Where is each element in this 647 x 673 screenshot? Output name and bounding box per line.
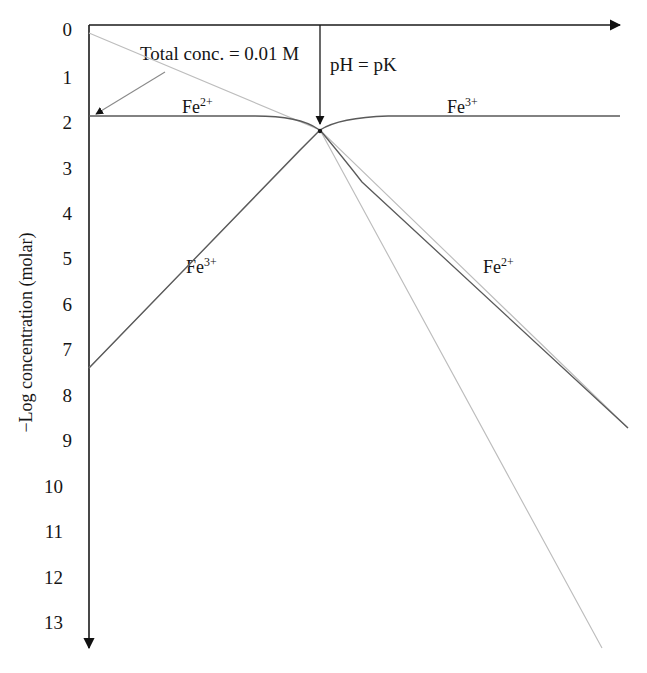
series-line-fe2plus-asymptote [89, 33, 602, 648]
total-concentration-pointer-arrow [96, 72, 165, 114]
plot-area [0, 0, 647, 673]
series-line-fe3plus [89, 116, 620, 368]
series-line-fe3plus-asymptote [89, 130, 628, 428]
crossing-point-marker [318, 129, 322, 133]
series-line-fe2plus [89, 116, 628, 428]
chart-figure: 0 1 2 3 4 5 6 7 8 9 10 11 12 13 −Log con… [0, 0, 647, 673]
